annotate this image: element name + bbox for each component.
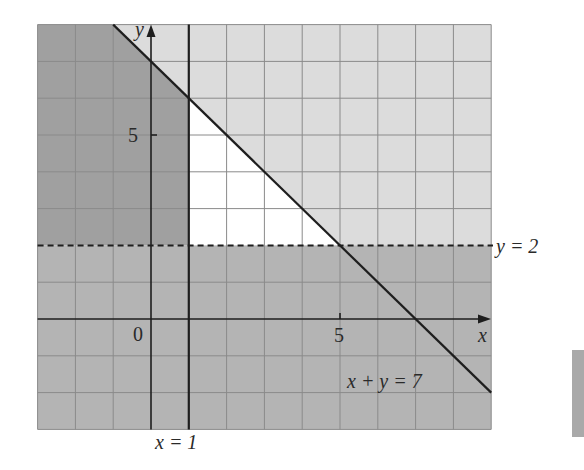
x-axis-label: x: [477, 324, 487, 346]
label-x-eq-1: x = 1: [154, 431, 197, 453]
side-tab: [572, 350, 584, 437]
inequality-graph: y x 0 5 5 y = 2 x + y = 7 x = 1: [0, 0, 584, 470]
x-tick-label-5: 5: [334, 324, 344, 346]
y-axis-label: y: [133, 18, 144, 41]
origin-label: 0: [133, 323, 143, 345]
y-tick-label-5: 5: [128, 124, 138, 146]
label-y-eq-2: y = 2: [494, 235, 538, 258]
label-x-plus-y-eq-7: x + y = 7: [346, 370, 423, 393]
